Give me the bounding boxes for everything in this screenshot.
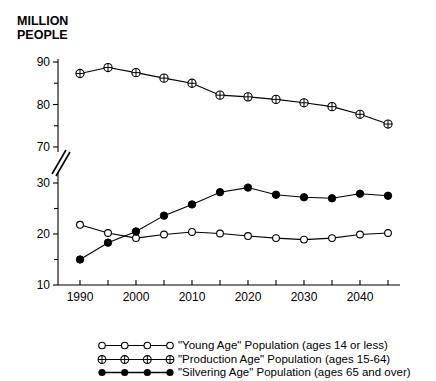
svg-text:10: 10	[37, 278, 51, 292]
svg-text:2020: 2020	[235, 290, 262, 304]
svg-text:90: 90	[37, 55, 51, 69]
population-chart: MILLION PEOPLE 7080901020301990200020102…	[0, 0, 436, 381]
svg-text:1990: 1990	[67, 290, 94, 304]
svg-text:2040: 2040	[347, 290, 374, 304]
series-layer	[76, 63, 392, 263]
axes	[52, 59, 400, 285]
legend-label-silvering-age: "Silvering Age" Population (ages 65 and …	[178, 366, 411, 379]
svg-text:2010: 2010	[179, 290, 206, 304]
legend-item-production-age: "Production Age" Population (ages 15-64)	[96, 350, 436, 364]
plot-area: 708090102030199020002010202020302040	[0, 0, 436, 381]
svg-text:20: 20	[37, 227, 51, 241]
legend: "Young Age" Population (ages 14 or less)	[96, 336, 436, 377]
series-filled-circle	[76, 184, 391, 263]
legend-item-silvering-age: "Silvering Age" Population (ages 65 and …	[96, 363, 436, 377]
series-circle-plus	[76, 63, 392, 128]
svg-text:2000: 2000	[123, 290, 150, 304]
tick-labels: 708090102030199020002010202020302040	[37, 55, 374, 304]
svg-text:30: 30	[37, 176, 51, 190]
svg-text:70: 70	[37, 140, 51, 154]
svg-text:2030: 2030	[291, 290, 318, 304]
series-open-circle	[77, 221, 392, 243]
svg-text:80: 80	[37, 98, 51, 112]
legend-item-young-age: "Young Age" Population (ages 14 or less)	[96, 336, 436, 350]
legend-marker-filled-circle	[96, 365, 176, 378]
